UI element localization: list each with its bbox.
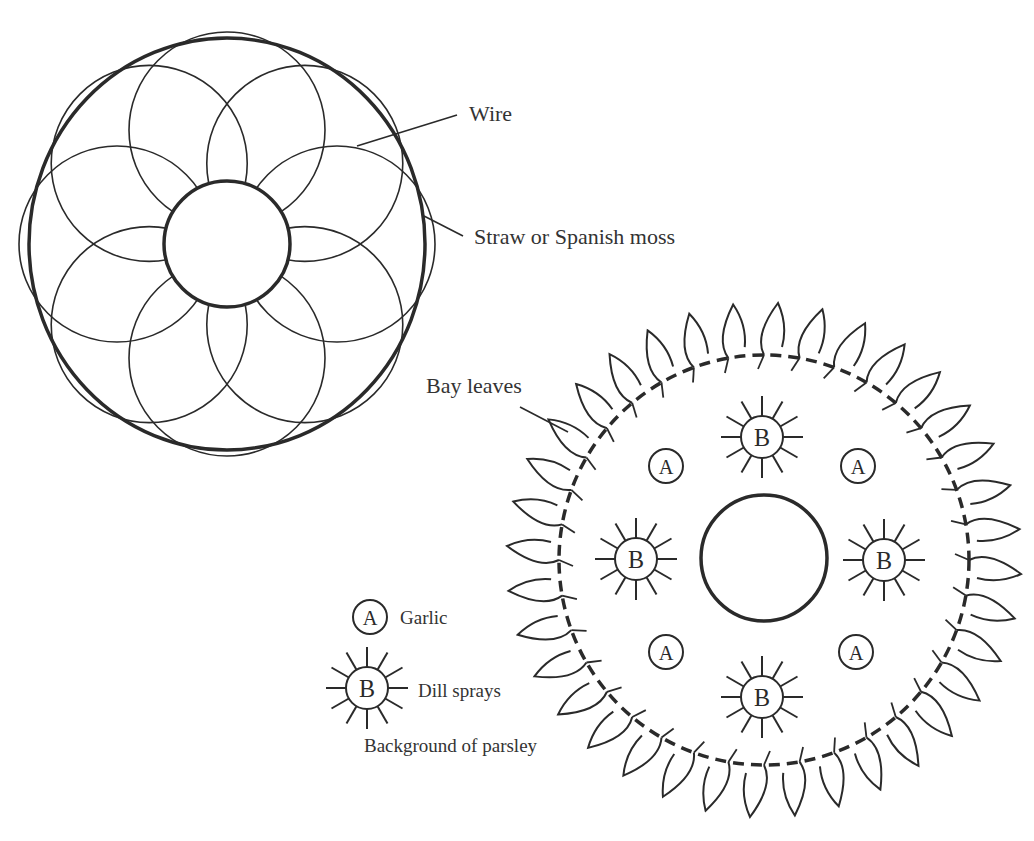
bay-leaf [610,354,641,403]
svg-text:B: B [628,546,644,573]
bay-leaf [916,692,952,736]
bay-leaf [663,753,694,797]
bay-leaf [513,499,562,525]
center-hole [164,181,290,307]
bay-leaf [527,459,571,490]
bay-leaves-label: Bay leaves [426,375,522,397]
bay-leaf [723,304,745,358]
bay-leaf [761,303,784,355]
bay-leaf [939,663,979,701]
bay-leaf [966,519,1020,541]
bay-leaf [508,579,562,601]
bottom-wreath: AAAABBBB [507,303,1021,817]
bay-leaf [684,314,708,368]
svg-text:B: B [876,547,892,574]
wire-label: Wire [469,103,512,125]
bay-leaf [957,480,1011,504]
bay-leaf [703,762,729,811]
bay-leaf [957,630,1001,661]
bottom-center-hole [701,495,827,621]
wire-leader-line [357,115,457,146]
bay-leaf [623,735,661,775]
svg-text:A: A [659,642,674,664]
bay-leaf [896,372,940,408]
bay-leaf [558,683,607,714]
svg-text:A: A [363,607,378,629]
bay-leaf [507,540,559,563]
bay-leaf [783,762,805,816]
bay-leaves-ring [507,303,1021,817]
svg-text:A: A [849,642,864,664]
bay-leaf [744,765,767,817]
bay-leaf [887,717,918,766]
bay-leaf [942,443,994,469]
legend-symbols: AB [326,600,408,729]
bay-leaf [588,712,632,748]
bay-leaf [834,323,865,367]
legend-dill-label: Dill sprays [418,681,501,700]
bay-leaf [820,753,844,807]
svg-text:B: B [359,675,375,702]
wreath-diagram: AAAABBBB AB [0,0,1034,841]
bay-leaf [966,594,1015,620]
bay-leaf [855,738,881,790]
bay-leaf [518,616,572,640]
bay-leaf [867,344,905,384]
bay-leaf [921,406,970,437]
svg-text:B: B [754,684,770,711]
top-wreath [19,32,435,456]
legend-parsley-note: Background of parsley [364,736,537,755]
bay-leaf [969,557,1021,580]
svg-text:A: A [659,456,674,478]
bay-leaf [647,330,673,382]
markers: AAAABBBB [595,396,925,738]
bay-leaf [798,309,824,358]
bay-leaf [534,651,586,677]
svg-text:B: B [754,424,770,451]
bay-leaves-leader-line [520,407,568,432]
straw-label: Straw or Spanish moss [474,226,675,248]
bay-leaf [576,384,612,428]
straw-leader-line [424,216,463,236]
svg-text:A: A [851,456,866,478]
legend-garlic-label: Garlic [400,608,447,627]
